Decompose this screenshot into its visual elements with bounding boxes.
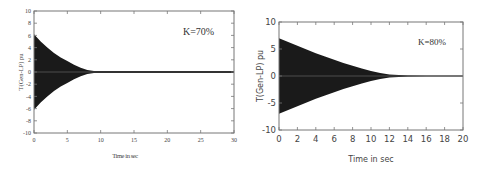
y-tick-label: 2 <box>28 57 31 63</box>
y-tick-label: -10 <box>23 130 31 136</box>
signal-envelope <box>34 34 234 110</box>
chart-k80-svg: -10-50510 02468101214161820 K=80% Time i… <box>240 0 480 172</box>
y-tick-label: -6 <box>26 106 31 112</box>
x-tick-label: 6 <box>331 134 336 144</box>
chart-k80: -10-50510 02468101214161820 K=80% Time i… <box>240 0 480 172</box>
y-tick-label: -8 <box>26 118 31 124</box>
x-tick-label: 8 <box>350 134 355 144</box>
x-tick-label: 30 <box>231 137 237 143</box>
x-tick-label: 16 <box>421 134 432 144</box>
x-tick-label: 15 <box>131 137 137 143</box>
y-tick-label: -4 <box>26 94 31 100</box>
chart-k70: -10-8-6-4-20246810 051015202530 K=70% Ti… <box>0 0 240 172</box>
signal-envelope <box>279 38 463 114</box>
annotation-k: K=70% <box>183 26 214 37</box>
x-tick-label: 4 <box>313 134 318 144</box>
x-tick-label: 14 <box>402 134 413 144</box>
x-axis-label: Time in sec <box>347 155 393 164</box>
y-tick-label: 10 <box>25 8 31 14</box>
y-tick-label: 0 <box>271 71 276 81</box>
y-tick-label: 4 <box>28 45 31 51</box>
y-tick-label: -2 <box>26 81 31 87</box>
x-tick-label: 0 <box>33 137 36 143</box>
y-tick-label: 6 <box>28 33 31 39</box>
x-axis-label: Time in sec <box>112 152 138 159</box>
y-tick-label: -10 <box>262 125 276 135</box>
chart-k70-svg: -10-8-6-4-20246810 051015202530 K=70% Ti… <box>0 0 240 172</box>
x-tick-label: 20 <box>164 137 170 143</box>
x-tick-label: 12 <box>384 134 395 144</box>
y-tick-label: -5 <box>268 98 276 108</box>
x-tick-label: 10 <box>98 137 104 143</box>
x-tick-label: 10 <box>366 134 377 144</box>
y-tick-label: 0 <box>28 69 31 75</box>
y-axis-label: T(Gen-LP) pu <box>256 50 265 103</box>
y-axis-label: T(Gen-LP) pu <box>17 53 25 91</box>
x-tick-label: 0 <box>276 134 281 144</box>
x-tick-label: 18 <box>439 134 450 144</box>
x-tick-label: 20 <box>458 134 469 144</box>
annotation-k: K=80% <box>418 37 447 47</box>
y-tick-label: 8 <box>28 20 31 26</box>
y-tick-label: 5 <box>271 44 276 54</box>
x-tick-label: 25 <box>198 137 204 143</box>
y-tick-label: 10 <box>265 17 276 27</box>
x-tick-label: 2 <box>295 134 300 144</box>
x-tick-label: 5 <box>66 137 69 143</box>
